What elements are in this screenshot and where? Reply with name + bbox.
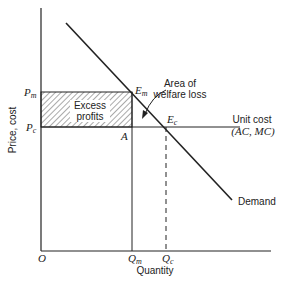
qc-label: Qc (162, 252, 174, 266)
unit-cost-label: Unit cost (233, 114, 272, 125)
a-label: A (120, 130, 128, 142)
x-axis-label: Quantity (136, 265, 173, 276)
qm-label: Qm (128, 252, 142, 266)
unit-cost-sublabel: (AC, MC) (231, 125, 275, 138)
em-label: Em (134, 84, 148, 98)
ec-label: Ec (166, 113, 178, 127)
welfare-loss-label-2: welfare loss (153, 89, 207, 100)
arrow-head-icon (142, 110, 148, 119)
origin-label: O (38, 252, 46, 264)
excess-profits-label-1: Excess (74, 100, 106, 111)
monopoly-welfare-diagram: Excess profits Area of welfare loss Unit… (0, 0, 296, 287)
pc-label: Pc (25, 121, 37, 135)
y-axis-label: Price, cost (7, 106, 18, 153)
pm-label: Pm (23, 86, 37, 100)
demand-label: Demand (238, 196, 276, 207)
excess-profits-label-2: profits (76, 111, 103, 122)
welfare-loss-label-1: Area of (164, 78, 196, 89)
